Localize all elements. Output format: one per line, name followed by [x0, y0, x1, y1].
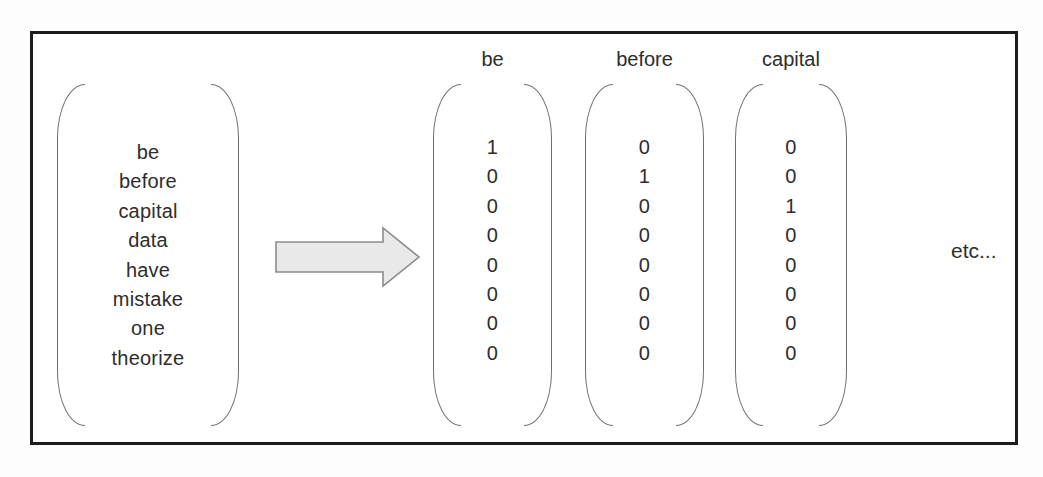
- vector-value: 0: [585, 221, 704, 250]
- vector-value: 0: [433, 162, 552, 191]
- vector-values: 0 1 0 0 0 0 0 0: [585, 133, 704, 368]
- vector-value: 0: [585, 251, 704, 280]
- vector-value: 0: [735, 339, 847, 368]
- vector-value: 1: [433, 133, 552, 162]
- vector-value: 0: [735, 162, 847, 191]
- vector-matrix: 0 0 1 0 0 0 0 0: [735, 84, 847, 426]
- right-arrow-icon: [273, 226, 423, 290]
- vocab-word: before: [57, 167, 239, 196]
- one-hot-vector-before: before 0 1 0 0 0 0 0 0: [585, 46, 704, 426]
- vector-label: before: [585, 46, 704, 72]
- vector-value: 0: [433, 339, 552, 368]
- vector-value: 1: [735, 192, 847, 221]
- one-hot-vector-capital: capital 0 0 1 0 0 0 0 0: [735, 46, 847, 426]
- vocab-word: mistake: [57, 285, 239, 314]
- vocab-word: one: [57, 314, 239, 343]
- vector-value: 0: [735, 133, 847, 162]
- diagram-canvas: be before capital data have mistake one …: [0, 0, 1043, 477]
- vector-value: 0: [735, 280, 847, 309]
- diagram-frame: be before capital data have mistake one …: [30, 31, 1018, 445]
- vector-value: 0: [585, 309, 704, 338]
- etc-label: etc...: [951, 237, 1043, 265]
- vector-value: 0: [585, 280, 704, 309]
- vector-value: 0: [585, 339, 704, 368]
- vector-label: be: [433, 46, 552, 72]
- vector-label: capital: [735, 46, 847, 72]
- vector-value: 0: [585, 192, 704, 221]
- vector-value: 0: [433, 309, 552, 338]
- vector-value: 0: [433, 251, 552, 280]
- vocabulary-matrix: be before capital data have mistake one …: [57, 84, 239, 426]
- vector-value: 0: [433, 192, 552, 221]
- vocab-word: data: [57, 226, 239, 255]
- vector-matrix: 1 0 0 0 0 0 0 0: [433, 84, 552, 426]
- vector-values: 0 0 1 0 0 0 0 0: [735, 133, 847, 368]
- one-hot-vector-be: be 1 0 0 0 0 0 0 0: [433, 46, 552, 426]
- vocab-word: have: [57, 256, 239, 285]
- vocab-word: capital: [57, 197, 239, 226]
- vocabulary-list: be before capital data have mistake one …: [57, 138, 239, 373]
- vector-value: 0: [585, 133, 704, 162]
- vector-value: 0: [735, 221, 847, 250]
- vector-value: 0: [433, 221, 552, 250]
- vocab-word: be: [57, 138, 239, 167]
- vector-value: 0: [735, 309, 847, 338]
- vector-matrix: 0 1 0 0 0 0 0 0: [585, 84, 704, 426]
- vector-value: 0: [735, 251, 847, 280]
- vector-value: 0: [433, 280, 552, 309]
- vector-values: 1 0 0 0 0 0 0 0: [433, 133, 552, 368]
- vocab-word: theorize: [57, 344, 239, 373]
- vector-value: 1: [585, 162, 704, 191]
